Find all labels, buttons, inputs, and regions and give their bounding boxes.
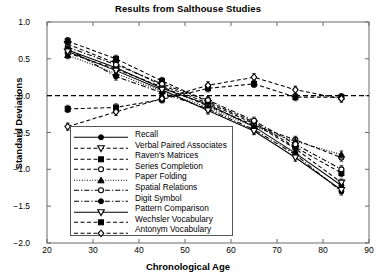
legend-key-filled-square-icon <box>71 150 131 161</box>
legend-label: Wechsler Vocabulary <box>131 214 213 225</box>
legend-key-open-circle-icon <box>71 161 131 172</box>
legend-label: Recall <box>131 129 158 140</box>
legend-label: Series Completion <box>131 161 203 172</box>
legend-item[interactable]: Raven's Matrices <box>71 150 232 161</box>
legend-item[interactable]: Antonym Vocabulary <box>71 224 232 235</box>
legend-key-filled-circle-icon <box>71 193 131 204</box>
legend-item[interactable]: Spatial Relations <box>71 182 232 193</box>
legend-item[interactable]: Series Completion <box>71 161 232 172</box>
legend-label: Spatial Relations <box>131 182 197 193</box>
data-point-marker <box>293 95 298 100</box>
legend-key-open-down-triangle-icon <box>71 140 131 151</box>
legend-label: Paper Folding <box>131 171 187 182</box>
data-point-marker <box>65 106 70 111</box>
series-antonym-vocabulary <box>65 74 344 131</box>
data-point-marker <box>252 118 257 123</box>
data-point-marker <box>293 142 298 147</box>
data-point-marker <box>293 86 299 93</box>
legend-key-open-down-triangle-icon <box>71 203 131 214</box>
chart-figure: Results from Salthouse Studies Standard … <box>0 0 376 278</box>
data-point-marker <box>251 74 257 81</box>
data-point-marker <box>206 98 211 103</box>
legend-item[interactable]: Paper Folding <box>71 171 232 182</box>
data-point-marker <box>114 56 119 61</box>
legend-item[interactable]: Verbal Paired Associates <box>71 140 232 151</box>
data-point-marker <box>252 81 257 86</box>
data-point-marker <box>114 62 119 67</box>
data-point-marker <box>160 81 165 86</box>
legend-item[interactable]: Recall <box>71 129 232 140</box>
legend-label: Digit Symbol <box>131 193 182 204</box>
legend-key-filled-triangle-icon <box>71 171 131 182</box>
legend-label: Pattern Comparison <box>131 203 209 214</box>
data-point-marker <box>339 167 344 172</box>
data-point-marker <box>98 230 104 237</box>
legend-label: Verbal Paired Associates <box>131 140 227 151</box>
legend-key-open-diamond-icon <box>71 224 131 235</box>
legend-key-open-circle-icon <box>71 182 131 193</box>
chart-legend: RecallVerbal Paired AssociatesRaven's Ma… <box>70 126 233 236</box>
legend-key-filled-square-icon <box>71 214 131 225</box>
legend-item[interactable]: Digit Symbol <box>71 193 232 204</box>
legend-key-filled-circle-icon <box>71 129 131 140</box>
legend-label: Antonym Vocabulary <box>131 224 211 235</box>
legend-item[interactable]: Pattern Comparison <box>71 203 232 214</box>
data-point-marker <box>65 39 70 44</box>
data-point-marker <box>292 155 299 161</box>
legend-label: Raven's Matrices <box>131 150 198 161</box>
legend-item[interactable]: Wechsler Vocabulary <box>71 214 232 225</box>
